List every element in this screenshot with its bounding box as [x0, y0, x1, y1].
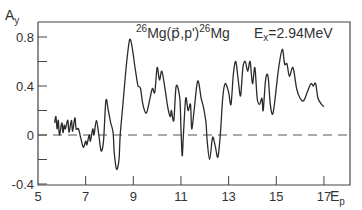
x-tick-label: 13	[221, 189, 235, 204]
chart-title: 26Mg(p⃗,p')26Mg	[136, 23, 230, 41]
x-tick-label: 15	[269, 189, 283, 204]
x-tick-label: 7	[82, 189, 89, 204]
y-tick-label: -0.4	[12, 177, 34, 192]
axes-box	[38, 22, 350, 185]
x-axis-ticks: 57911131517	[34, 176, 331, 204]
x-tick-label: 11	[174, 189, 188, 204]
x-tick-label: 9	[130, 189, 137, 204]
x-axis-label: Ep	[330, 188, 345, 207]
plot-frame	[38, 22, 350, 185]
y-axis-ticks: 0.80.40-0.4	[12, 30, 47, 192]
excitation-energy-label: Ex=2.94MeV	[254, 25, 333, 43]
y-tick-label: 0.8	[16, 30, 34, 45]
x-tick-label: 5	[34, 189, 41, 204]
y-axis-label: Ay	[5, 7, 19, 26]
y-tick-label: 0	[27, 128, 34, 143]
y-tick-label: 0.4	[16, 79, 34, 94]
data-series-line	[55, 39, 324, 169]
asymmetry-chart: 0.80.40-0.4 57911131517 Ay Ep 26Mg(p⃗,p'…	[0, 0, 362, 210]
